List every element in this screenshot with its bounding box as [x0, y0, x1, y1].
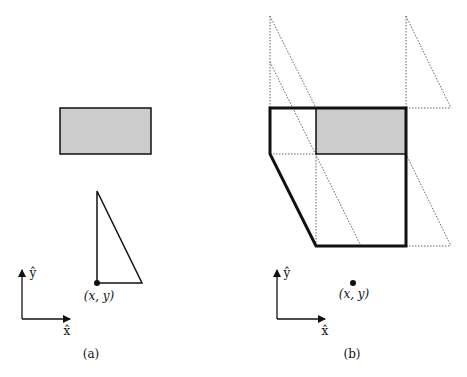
panel-b	[270, 16, 451, 319]
caption-b: (b)	[343, 347, 360, 361]
point-label: (x, y)	[339, 287, 370, 301]
axis-y-label: ŷ	[30, 266, 37, 280]
point-label: (x, y)	[84, 289, 115, 303]
caption-a: (a)	[83, 347, 100, 361]
reference-point	[350, 280, 356, 286]
axis-x-label: x̂	[64, 324, 71, 338]
triangle	[97, 191, 142, 283]
gray-rectangle	[316, 108, 406, 154]
diagram-canvas	[0, 0, 467, 377]
axis-y-label: ŷ	[284, 266, 291, 280]
reference-point	[94, 280, 100, 286]
axis-x-label: x̂	[322, 324, 329, 338]
panel-a	[22, 108, 151, 319]
gray-rectangle	[60, 108, 151, 154]
